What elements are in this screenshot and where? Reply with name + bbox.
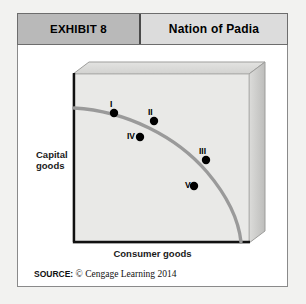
data-point-V — [190, 182, 198, 190]
data-point-label-I: I — [110, 100, 112, 109]
chart-area: Capital goods Consumer goods I II III IV… — [17, 45, 288, 287]
data-point-IV — [136, 133, 144, 141]
source-credit: SOURCE: © Cengage Learning 2014 — [34, 269, 176, 279]
data-point-label-III: III — [199, 147, 206, 156]
box-right-face — [249, 62, 265, 243]
exhibit-header: EXHIBIT 8 Nation of Padia — [17, 13, 288, 45]
data-point-label-II: II — [148, 108, 153, 117]
data-point-III — [202, 156, 210, 164]
exhibit-title: Nation of Padia — [141, 14, 287, 44]
data-point-label-IV: IV — [127, 132, 135, 141]
data-point-II — [150, 117, 158, 125]
data-point-label-V: V — [185, 181, 191, 190]
source-label: SOURCE: — [34, 269, 73, 279]
x-axis-title: Consumer goods — [17, 248, 288, 259]
exhibit-figure: EXHIBIT 8 Nation of Padia — [0, 0, 306, 304]
data-point-I — [110, 109, 118, 117]
box-top-face — [73, 62, 265, 74]
source-value: © Cengage Learning 2014 — [73, 269, 176, 279]
y-axis-title: Capital goods — [36, 149, 82, 171]
plot-front-face — [73, 74, 249, 243]
exhibit-number-label: EXHIBIT 8 — [18, 14, 141, 44]
